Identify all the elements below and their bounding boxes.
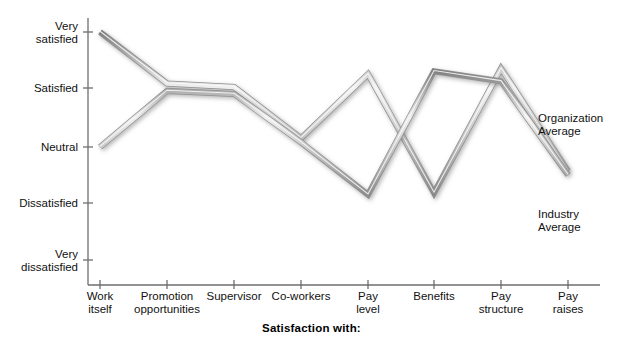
y-tick-label-very-dissatisfied: Very dissatisfied [0, 248, 78, 273]
y-tick-label-dissatisfied: Dissatisfied [0, 197, 78, 210]
satisfaction-line-chart: Very satisfied Satisfied Neutral Dissati… [0, 0, 623, 345]
series-label-organization-average: Organization Average [538, 112, 603, 138]
x-axis-title: Satisfaction with: [0, 322, 623, 334]
x-tick-label-pay-raises: Pay raises [520, 290, 616, 316]
y-tick-label-neutral: Neutral [6, 141, 78, 154]
series-lines [100, 31, 568, 194]
series-industry-average [100, 71, 568, 195]
y-tick-label-very-satisfied: Very satisfied [6, 20, 78, 45]
series-ribbon [100, 71, 568, 194]
series-label-industry-average: Industry Average [538, 208, 581, 234]
y-tick-label-satisfied: Satisfied [6, 82, 78, 95]
